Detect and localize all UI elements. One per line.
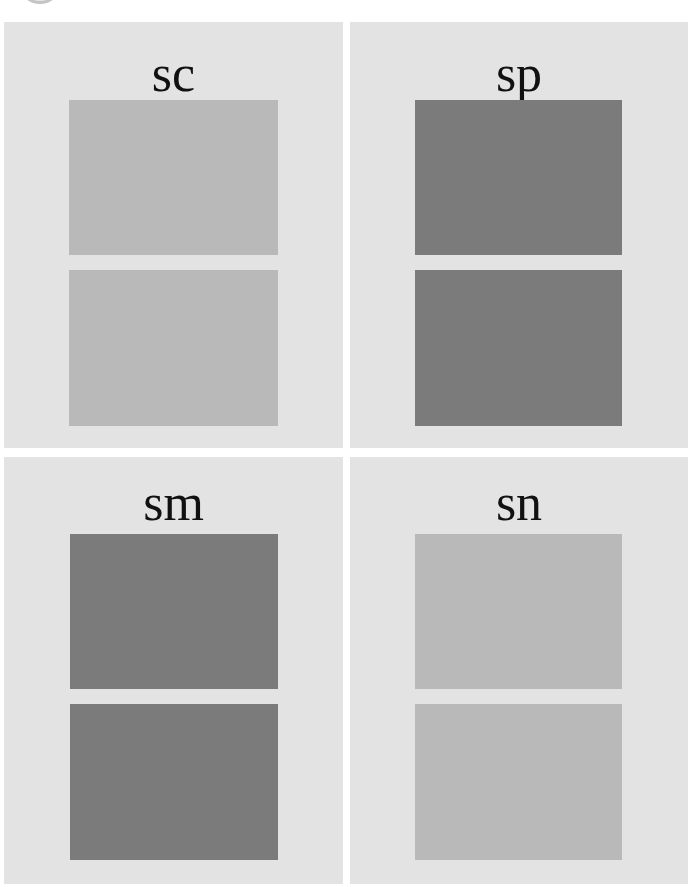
swatch-top xyxy=(415,100,622,255)
swatch-top xyxy=(70,534,278,689)
panel-sp: sp xyxy=(350,22,688,448)
swatch-top xyxy=(415,534,622,689)
swatch-bottom xyxy=(415,704,622,860)
swatch-bottom xyxy=(69,270,278,426)
corner-circle-icon xyxy=(18,0,62,4)
panel-label: sn xyxy=(350,477,688,529)
panel-sc: sc xyxy=(4,22,343,448)
panel-label: sm xyxy=(4,477,343,529)
swatch-bottom xyxy=(415,270,622,426)
panel-sm: sm xyxy=(4,457,343,884)
panel-label: sc xyxy=(4,48,343,100)
panel-label: sp xyxy=(350,48,688,100)
panel-sn: sn xyxy=(350,457,688,884)
swatch-top xyxy=(69,100,278,255)
swatch-bottom xyxy=(70,704,278,860)
